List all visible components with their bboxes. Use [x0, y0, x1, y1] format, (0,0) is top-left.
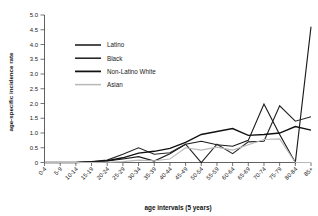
incidence-rate-line-chart: age-specific incidence rate 00.51.01.52.… — [0, 0, 318, 216]
y-tick-label: 1.5 — [30, 115, 39, 121]
legend-label-non-latino-white: Non-Latino White — [107, 68, 156, 75]
chart-container: age-specific incidence rate 00.51.01.52.… — [0, 0, 318, 216]
chart-background — [0, 0, 318, 216]
y-tick-label: 3.0 — [30, 71, 39, 77]
y-tick-label: 1.0 — [30, 130, 39, 136]
y-tick-label: 4.5 — [30, 27, 39, 33]
y-tick-label: 4.0 — [30, 42, 39, 48]
y-tick-label: 3.5 — [30, 56, 39, 62]
y-tick-label: 2.5 — [30, 86, 39, 92]
y-tick-label: 2.0 — [30, 101, 39, 107]
y-tick-label: 0.5 — [30, 145, 39, 151]
y-axis-label: age-specific incidence rate — [7, 52, 14, 132]
y-tick-label: 5.0 — [30, 12, 39, 18]
legend-label-asian: Asian — [107, 81, 123, 88]
legend-label-black: Black — [107, 55, 123, 62]
x-axis-label: age intervals (5 years) — [144, 204, 211, 212]
legend-label-latino: Latino — [107, 41, 125, 48]
